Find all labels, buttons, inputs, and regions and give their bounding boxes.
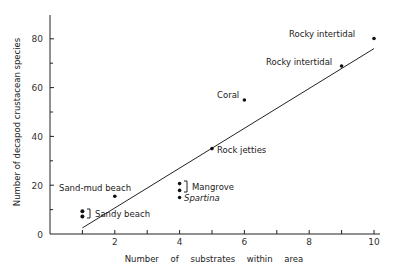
label-coral: Coral xyxy=(217,90,239,100)
x-tick-label-10: 10 xyxy=(368,237,380,247)
x-axis-title: Number of substrates within area xyxy=(125,254,304,264)
label-sand-mud-beach: Sand-mud beach xyxy=(59,183,131,193)
x-ticks xyxy=(82,230,374,234)
label-rocky-intertidal-9: Rocky intertidal xyxy=(266,57,332,67)
label-rocky-intertidal-10: Rocky intertidal xyxy=(289,29,355,39)
x-tick-label-2: 2 xyxy=(112,237,118,247)
x-tick-label-8: 8 xyxy=(306,237,312,247)
y-tick-label-60: 60 xyxy=(32,83,44,93)
regression-line xyxy=(82,49,374,228)
point-mangrove-2 xyxy=(178,189,182,193)
x-tick-label-4: 4 xyxy=(177,237,183,247)
point-rocky-intertidal-9 xyxy=(340,64,344,68)
point-coral xyxy=(243,98,247,102)
label-sandy-beach: Sandy beach xyxy=(95,209,150,219)
mangrove-bracket xyxy=(184,181,187,192)
y-tick-label-80: 80 xyxy=(32,34,44,44)
point-sand-mud-beach xyxy=(113,194,117,198)
y-axis-title: Number of decapod crustacean species xyxy=(12,37,22,206)
y-tick-label-0: 0 xyxy=(37,230,43,240)
sandy-beach-bracket xyxy=(87,209,90,218)
y-ticks xyxy=(50,39,54,210)
label-mangrove: Mangrove xyxy=(192,182,234,192)
point-rock-jetties xyxy=(210,147,214,151)
x-tick-label-6: 6 xyxy=(242,237,248,247)
label-spartina: Spartina xyxy=(184,193,220,203)
point-spartina xyxy=(178,196,182,200)
point-mangrove-1 xyxy=(178,182,182,186)
label-rock-jetties: Rock jetties xyxy=(217,145,267,155)
point-sandy-beach-1 xyxy=(80,209,84,213)
point-rocky-intertidal-10 xyxy=(372,37,376,41)
point-sandy-beach-2 xyxy=(80,214,84,218)
y-tick-label-20: 20 xyxy=(32,181,44,191)
y-tick-label-40: 40 xyxy=(32,132,44,142)
scatter-chart: 0 20 40 60 80 2 4 6 8 10 Number of decap… xyxy=(0,0,398,275)
